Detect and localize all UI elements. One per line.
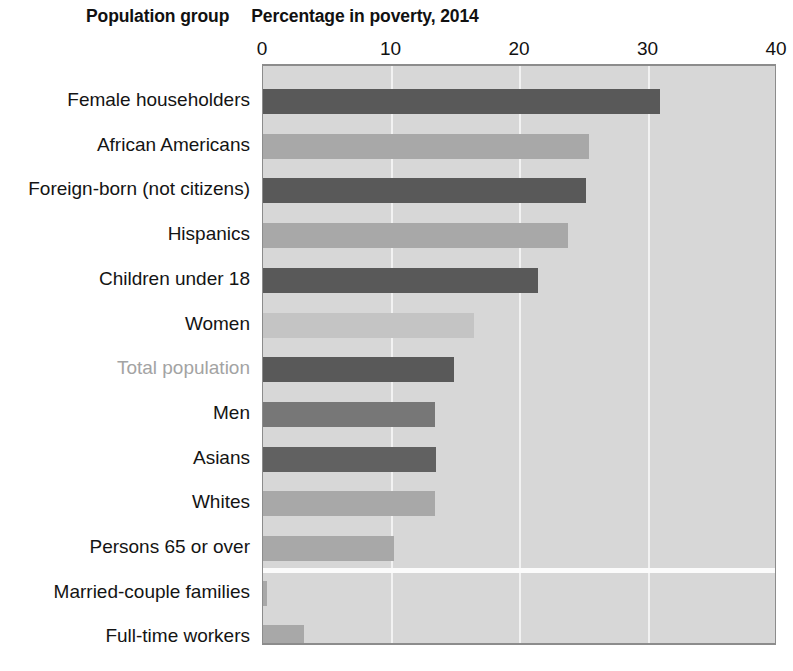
bar xyxy=(263,268,538,293)
bar xyxy=(263,447,436,472)
bar xyxy=(263,357,454,382)
bar xyxy=(263,313,474,338)
bar xyxy=(263,536,394,561)
bar xyxy=(263,581,267,606)
bar xyxy=(263,178,586,203)
bar xyxy=(263,625,304,645)
x-tick-label-20: 20 xyxy=(508,38,529,60)
category-label: Men xyxy=(0,400,256,425)
category-label: African Americans xyxy=(0,132,256,157)
horizontal-separator-band xyxy=(263,568,775,573)
category-label: Married-couple families xyxy=(0,579,256,604)
category-label: Asians xyxy=(0,445,256,470)
bar xyxy=(263,223,568,248)
category-label: Women xyxy=(0,311,256,336)
category-label: Hispanics xyxy=(0,221,256,246)
plot-area xyxy=(262,64,776,645)
category-label: Persons 65 or over xyxy=(0,534,256,559)
chart-title: Percentage in poverty, 2014 xyxy=(251,6,479,27)
bar xyxy=(263,402,435,427)
category-labels: Female householdersAfrican AmericansFore… xyxy=(0,0,256,671)
x-tick-label-0: 0 xyxy=(257,38,268,60)
category-label: Children under 18 xyxy=(0,266,256,291)
category-label: Female householders xyxy=(0,87,256,112)
category-label: Whites xyxy=(0,489,256,514)
poverty-bar-chart: Population group Percentage in poverty, … xyxy=(0,0,793,671)
bar xyxy=(263,134,589,159)
bar xyxy=(263,89,660,114)
gridline-30 xyxy=(648,66,650,643)
x-tick-label-40: 40 xyxy=(765,38,786,60)
x-tick-label-10: 10 xyxy=(380,38,401,60)
bar xyxy=(263,491,435,516)
category-label: Foreign-born (not citizens) xyxy=(0,176,256,201)
category-label: Full-time workers xyxy=(0,623,256,648)
x-tick-label-30: 30 xyxy=(637,38,658,60)
category-label: Total population xyxy=(0,355,256,380)
